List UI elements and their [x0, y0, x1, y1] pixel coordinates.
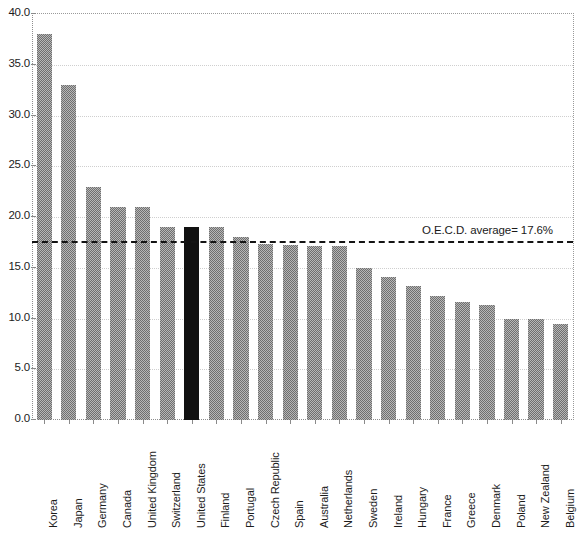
x-axis: KoreaJapanGermanyCanadaUnited KingdomSwi…: [32, 424, 573, 533]
x-tick-label: United Kingdom: [147, 451, 158, 528]
y-tick-label: 30.0: [0, 109, 30, 121]
x-tick-label: Ireland: [393, 495, 404, 528]
y-tick-mark: [31, 368, 36, 369]
x-tick-label: Korea: [48, 499, 59, 528]
y-tick-mark: [31, 64, 36, 65]
bar: [356, 268, 371, 420]
x-tick-label: Switzerland: [171, 472, 182, 528]
x-tick-label: Czech Republic: [270, 452, 281, 528]
bar: [381, 277, 396, 420]
bar: [61, 85, 76, 420]
plot-area: O.E.C.D. average= 17.6%: [32, 13, 574, 420]
x-tick-label: United States: [196, 463, 207, 528]
x-tick-label: Hungary: [417, 487, 428, 528]
bar: [332, 246, 347, 420]
y-tick-label: 35.0: [0, 58, 30, 70]
bar: [479, 305, 494, 420]
x-tick-label: Poland: [516, 494, 527, 528]
y-tick-label: 5.0: [0, 362, 30, 374]
bar: [504, 319, 519, 421]
x-tick-label: Australia: [319, 486, 330, 528]
x-tick-label: Canada: [122, 490, 133, 528]
oecd-average-label: O.E.C.D. average= 17.6%: [422, 224, 553, 236]
x-tick-label: France: [442, 494, 453, 528]
bar: [86, 187, 101, 420]
y-tick-mark: [31, 419, 36, 420]
y-tick-label: 10.0: [0, 312, 30, 324]
y-tick-label: 0.0: [0, 413, 30, 425]
bar: [135, 207, 150, 420]
x-tick-label: Sweden: [368, 489, 379, 528]
bar: [37, 34, 52, 420]
bar: [430, 296, 445, 420]
x-tick-label: Portugal: [245, 488, 256, 528]
bar: [184, 227, 199, 420]
bar: [258, 244, 273, 420]
y-tick-label: 40.0: [0, 7, 30, 19]
bar: [209, 227, 224, 420]
x-tick-label: Germany: [97, 483, 108, 528]
bar: [406, 286, 421, 420]
bar: [528, 319, 543, 421]
x-tick-label: Spain: [294, 500, 305, 528]
bar-chart: 0.05.010.015.020.025.030.035.040.0 O.E.C…: [0, 0, 584, 533]
bars: [32, 14, 573, 420]
x-tick-label: New Zealand: [540, 464, 551, 528]
x-tick-label: Denmark: [491, 484, 502, 528]
y-tick-mark: [31, 318, 36, 319]
y-axis: 0.05.010.015.020.025.030.035.040.0: [0, 0, 30, 430]
y-tick-label: 15.0: [0, 261, 30, 273]
bar: [307, 246, 322, 420]
x-tick-label: Netherlands: [343, 470, 354, 528]
y-tick-label: 20.0: [0, 210, 30, 222]
x-tick-label: Belgium: [565, 489, 576, 528]
y-tick-label: 25.0: [0, 159, 30, 171]
x-tick-label: Greece: [466, 493, 477, 528]
bar: [233, 237, 248, 420]
oecd-average-line: [32, 241, 573, 243]
y-tick-mark: [31, 165, 36, 166]
x-tick-label: Finland: [220, 493, 231, 528]
bar: [455, 302, 470, 420]
bar: [553, 324, 568, 420]
y-tick-mark: [31, 216, 36, 217]
bar: [110, 207, 125, 420]
y-tick-mark: [31, 115, 36, 116]
bar: [283, 245, 298, 420]
bar: [160, 227, 175, 420]
y-tick-mark: [31, 267, 36, 268]
y-tick-mark: [31, 13, 36, 14]
x-tick-label: Japan: [73, 499, 84, 528]
